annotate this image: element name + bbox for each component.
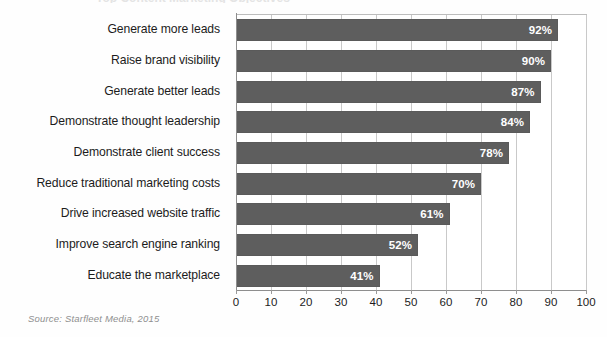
plot-area: 92%90%87%84%78%70%61%52%41% bbox=[236, 14, 587, 291]
bar-row: 84% bbox=[236, 111, 586, 133]
x-tick-label: 90 bbox=[531, 296, 571, 308]
x-tick-label: 50 bbox=[391, 296, 431, 308]
bar-value-label: 90% bbox=[236, 50, 551, 72]
bar-value-label: 41% bbox=[236, 265, 380, 287]
category-label: Generate more leads bbox=[107, 18, 220, 40]
clipped-chart-title: Top Content Marketing Objectives bbox=[96, 0, 336, 3]
bar-row: 90% bbox=[236, 50, 586, 72]
source-note: Source: Starfleet Media, 2015 bbox=[28, 313, 160, 324]
category-label: Raise brand visibility bbox=[111, 49, 220, 71]
category-label: Improve search engine ranking bbox=[56, 233, 220, 255]
x-tick-label: 40 bbox=[356, 296, 396, 308]
tick-mark-40 bbox=[376, 290, 377, 294]
bar-chart: Top Content Marketing Objectives Generat… bbox=[0, 0, 607, 337]
tick-mark-10 bbox=[271, 290, 272, 294]
tick-mark-0 bbox=[236, 290, 237, 294]
bar-value-label: 84% bbox=[236, 111, 530, 133]
tick-mark-20 bbox=[306, 290, 307, 294]
category-label: Generate better leads bbox=[104, 80, 220, 102]
tick-mark-70 bbox=[481, 290, 482, 294]
x-tick-label: 100 bbox=[566, 296, 606, 308]
x-tick-label: 70 bbox=[461, 296, 501, 308]
bar-value-label: 87% bbox=[236, 81, 541, 103]
bar-row: 87% bbox=[236, 81, 586, 103]
bar-row: 70% bbox=[236, 173, 586, 195]
category-label: Reduce traditional marketing costs bbox=[36, 172, 220, 194]
y-axis-line bbox=[236, 13, 237, 291]
bar-row: 41% bbox=[236, 265, 586, 287]
x-tick-label: 20 bbox=[286, 296, 326, 308]
x-tick-label: 80 bbox=[496, 296, 536, 308]
x-tick-label: 10 bbox=[251, 296, 291, 308]
x-tick-label: 30 bbox=[321, 296, 361, 308]
category-label: Educate the marketplace bbox=[87, 264, 220, 286]
x-tick-label: 0 bbox=[216, 296, 256, 308]
category-label: Drive increased website traffic bbox=[61, 202, 220, 224]
bar-row: 92% bbox=[236, 19, 586, 41]
bar-row: 61% bbox=[236, 203, 586, 225]
tick-mark-50 bbox=[411, 290, 412, 294]
gridline-100 bbox=[586, 15, 587, 291]
tick-mark-90 bbox=[551, 290, 552, 294]
bar-row: 52% bbox=[236, 234, 586, 256]
bar-row: 78% bbox=[236, 142, 586, 164]
category-label: Demonstrate client success bbox=[74, 141, 220, 163]
tick-mark-30 bbox=[341, 290, 342, 294]
bar-value-label: 52% bbox=[236, 234, 418, 256]
tick-mark-100 bbox=[586, 290, 587, 294]
x-tick-label: 60 bbox=[426, 296, 466, 308]
tick-mark-60 bbox=[446, 290, 447, 294]
tick-mark-80 bbox=[516, 290, 517, 294]
bar-value-label: 78% bbox=[236, 142, 509, 164]
category-axis-labels: Generate more leadsRaise brand visibilit… bbox=[0, 14, 228, 290]
bar-value-label: 61% bbox=[236, 203, 450, 225]
category-label: Demonstrate thought leadership bbox=[50, 110, 220, 132]
bar-value-label: 70% bbox=[236, 173, 481, 195]
bar-value-label: 92% bbox=[236, 19, 558, 41]
